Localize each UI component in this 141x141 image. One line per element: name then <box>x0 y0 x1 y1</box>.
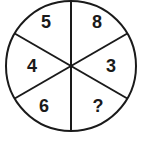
segment-bottom-right-value: ? <box>93 96 104 116</box>
segment-top-left-value: 5 <box>41 12 51 32</box>
segment-middle-left-value: 4 <box>27 56 37 76</box>
number-wheel-puzzle: 5 8 4 3 6 ? <box>0 0 141 141</box>
segment-top-right-value: 8 <box>92 12 102 32</box>
segment-bottom-left-value: 6 <box>39 96 49 116</box>
segment-middle-right-value: 3 <box>106 56 116 76</box>
